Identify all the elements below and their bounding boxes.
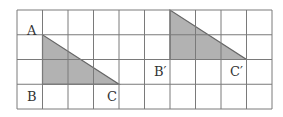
vertex-label: A	[26, 23, 37, 38]
vertex-label: B	[27, 89, 37, 104]
vertex-label: C	[107, 89, 117, 104]
vertex-label: B′	[154, 64, 167, 79]
vertex-label: C′	[230, 64, 243, 79]
triangle-translation-diagram: ABCB′C′	[0, 0, 283, 117]
